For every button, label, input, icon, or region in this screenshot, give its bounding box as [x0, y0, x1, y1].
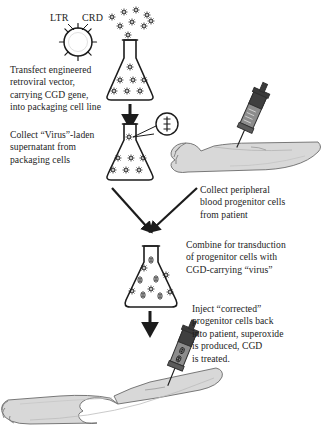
magnifier-callout-icon	[133, 113, 178, 137]
caption-collect-supernatant: Collect “Virus”-laden supernatant from p…	[10, 129, 132, 166]
erlenmeyer-flask-icon-3	[125, 246, 177, 307]
caption-transfect: Transfect engineered retroviral vector, …	[10, 64, 138, 114]
caption-inject: Inject “corrected” progenitor cells back…	[192, 303, 322, 365]
arm-icon-lower	[2, 368, 223, 424]
arrow-diagonal-icon-left	[112, 188, 147, 227]
syringe-icon-draw	[229, 80, 273, 151]
arm-icon-upper	[171, 142, 321, 173]
cgd-gene-therapy-figure: LTR CRD Transfect engineered retroviral …	[0, 0, 323, 429]
retrovirus-particle-icon	[60, 24, 97, 61]
vector-label-crd: CRD	[82, 12, 103, 23]
virus-glyph-cluster-top	[109, 7, 154, 38]
caption-collect-peripheral: Collect peripheral blood progenitor cell…	[200, 184, 320, 221]
caption-combine: Combine for transduction of progenitor c…	[186, 239, 322, 276]
arrow-diagonal-icon-right	[155, 188, 197, 227]
gene-construct-glyph	[164, 117, 171, 132]
vector-label-ltr: LTR	[50, 12, 69, 23]
